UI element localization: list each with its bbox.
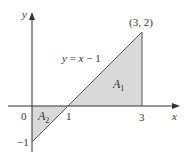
x-axis-label: x [171,110,177,122]
y-axis-arrow-icon [29,12,35,20]
tick-label-x3: 3 [139,111,145,123]
x-axis-arrow-icon [172,103,180,109]
origin-label: 0 [21,110,27,122]
point-label: (3, 2) [129,16,153,29]
y-axis-label: y [21,8,27,20]
tick-label-y-neg1: −1 [17,136,29,148]
function-label: y = x − 1 [61,52,101,64]
graph: y x (3, 2) y = x − 1 0 1 3 −1 A1 A2 [0,0,186,160]
tick-label-x1: 1 [66,110,72,122]
